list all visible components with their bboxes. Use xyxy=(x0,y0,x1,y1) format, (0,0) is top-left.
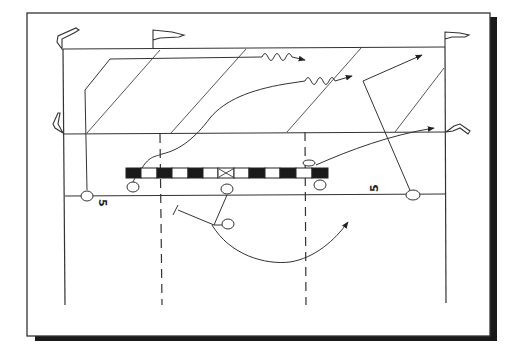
player-qb xyxy=(221,184,233,194)
player-flanker xyxy=(303,160,315,166)
player-rb xyxy=(222,219,234,229)
player-wr-right xyxy=(406,190,420,200)
player-te-left xyxy=(127,182,139,192)
ball-snap-icon xyxy=(218,168,234,178)
yard-number-left: 5 xyxy=(96,199,109,207)
yard-number-right: 5 xyxy=(368,184,381,192)
player-te-right xyxy=(314,180,326,190)
line-of-scrimmage xyxy=(126,168,328,178)
play-diagram: 5 5 xyxy=(0,0,521,357)
player-wr-left xyxy=(81,191,93,201)
